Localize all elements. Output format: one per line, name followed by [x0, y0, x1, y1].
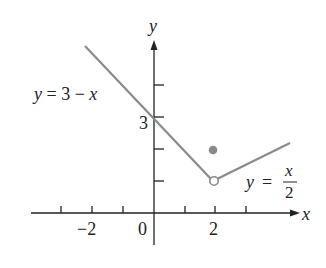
tick-label-0: 0 [138, 219, 147, 239]
filled-point [209, 146, 218, 155]
x-axis-arrow-icon [290, 210, 300, 217]
y-axis-label: y [147, 16, 157, 36]
y-axis-arrow-icon [151, 40, 158, 50]
piecewise-function-graph: y x −2 0 2 3 y = 3 − x y = x 2 [0, 0, 326, 268]
open-circle-point [210, 177, 218, 185]
y-axis [151, 40, 165, 245]
equation-left: y = 3 − x [32, 84, 97, 104]
svg-text:y: y [244, 172, 254, 192]
svg-text:=: = [262, 172, 272, 192]
equation-right: y = x 2 [244, 161, 297, 202]
tick-label-3: 3 [139, 113, 148, 133]
tick-label-2: 2 [209, 219, 218, 239]
svg-text:2: 2 [285, 183, 294, 202]
x-axis-label: x [301, 204, 310, 224]
svg-text:x: x [284, 161, 293, 180]
x-axis [31, 206, 300, 217]
tick-label-neg2: −2 [77, 219, 96, 239]
line-y-equals-3-minus-x [85, 46, 211, 179]
